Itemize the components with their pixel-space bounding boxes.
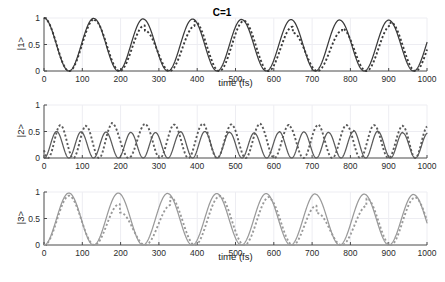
panel-state-2: |2> 00.510100200300400500600700800900100… (0, 95, 445, 187)
panel-state-1: |1> 00.510100200300400500600700800900100… (0, 0, 445, 95)
x-tick-label: 900 (382, 74, 396, 84)
x-tick-label: 100 (75, 161, 89, 171)
x-tick-label: 600 (267, 248, 281, 258)
x-tick-label: 700 (305, 161, 319, 171)
x-tick-label: 400 (190, 248, 204, 258)
x-tick-label: 0 (42, 161, 47, 171)
x-tick-label: 100 (75, 248, 89, 258)
x-tick-label: 200 (114, 248, 128, 258)
y-tick-label: 1 (35, 187, 40, 197)
x-tick-label: 800 (343, 74, 357, 84)
panel-1-plot: 00.5101002003004005006007008009001000tim… (0, 0, 445, 95)
x-tick-label: 1000 (418, 74, 437, 84)
x-axis-label: time (fs) (218, 77, 252, 88)
x-tick-label: 900 (382, 248, 396, 258)
y-tick-label: 0.5 (28, 127, 40, 137)
x-tick-label: 700 (305, 74, 319, 84)
x-tick-label: 300 (152, 161, 166, 171)
y-tick-label: 1 (35, 100, 40, 110)
x-axis-label: time (fs) (218, 251, 252, 262)
x-tick-label: 0 (42, 74, 47, 84)
x-tick-label: 100 (75, 74, 89, 84)
x-tick-label: 900 (382, 161, 396, 171)
y-tick-label: 0.5 (28, 40, 40, 50)
x-tick-label: 300 (152, 248, 166, 258)
y-tick-label: 0 (35, 240, 40, 250)
figure-root: C=1 |1> 00.51010020030040050060070080090… (0, 0, 445, 282)
x-tick-label: 800 (343, 248, 357, 258)
x-tick-label: 400 (190, 161, 204, 171)
panel-2-plot: 00.5101002003004005006007008009001000 (0, 95, 445, 187)
x-tick-label: 300 (152, 74, 166, 84)
x-tick-label: 500 (228, 161, 242, 171)
x-tick-label: 600 (267, 74, 281, 84)
x-tick-label: 600 (267, 161, 281, 171)
x-tick-label: 700 (305, 248, 319, 258)
x-tick-label: 200 (114, 74, 128, 84)
x-tick-label: 800 (343, 161, 357, 171)
x-tick-label: 1000 (418, 161, 437, 171)
x-tick-label: 1000 (418, 248, 437, 258)
x-tick-label: 400 (190, 74, 204, 84)
y-tick-label: 0 (35, 153, 40, 163)
panel-state-3: |3> 00.510100200300400500600700800900100… (0, 182, 445, 282)
x-tick-label: 200 (114, 161, 128, 171)
y-tick-label: 0.5 (28, 214, 40, 224)
y-tick-label: 1 (35, 13, 40, 23)
x-tick-label: 0 (42, 248, 47, 258)
y-tick-label: 0 (35, 66, 40, 76)
panel-3-plot: 00.5101002003004005006007008009001000tim… (0, 182, 445, 282)
